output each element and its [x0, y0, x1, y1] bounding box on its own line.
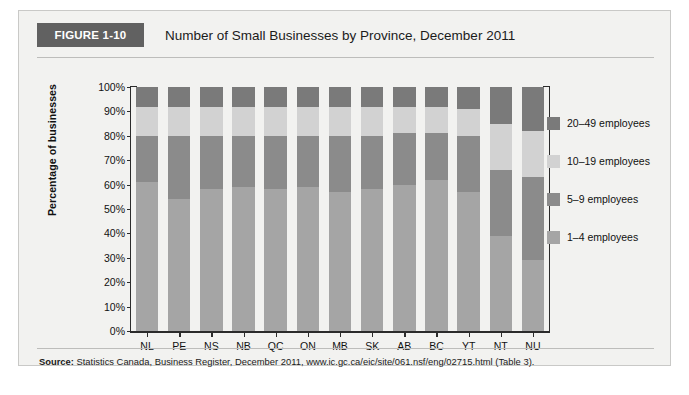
bar-segment — [168, 136, 191, 199]
y-tick-label: 100% — [98, 81, 125, 93]
x-tick-label-on: ON — [300, 340, 316, 352]
x-tick-label-ns: NS — [204, 340, 219, 352]
legend-label: 10–19 employees — [567, 155, 650, 167]
x-tick-mark — [533, 332, 534, 337]
bar-segment — [393, 87, 416, 107]
x-tick-label-pe: PE — [172, 340, 186, 352]
bar-segment — [297, 136, 320, 187]
bar-segment — [393, 133, 416, 184]
bar-segment — [490, 170, 513, 236]
x-tick-mark — [244, 332, 245, 337]
bar-segment — [393, 107, 416, 134]
x-tick-mark — [404, 332, 405, 337]
y-tick-label: 50% — [104, 203, 125, 215]
bar-yt[interactable] — [457, 87, 480, 331]
legend-swatch-icon — [547, 155, 560, 168]
x-tick-mark — [501, 332, 502, 337]
y-tick-label: 70% — [104, 154, 125, 166]
x-tick-mark — [179, 332, 180, 337]
bar-segment — [361, 87, 384, 107]
bar-segment — [264, 107, 287, 136]
bar-segment — [297, 87, 320, 107]
bar-sk[interactable] — [361, 87, 384, 331]
legend-item[interactable]: 5–9 employees — [547, 191, 650, 207]
x-tick-label-nt: NT — [494, 340, 508, 352]
legend-item[interactable]: 10–19 employees — [547, 153, 650, 169]
x-tick-label-bc: BC — [429, 340, 444, 352]
bar-ns[interactable] — [200, 87, 223, 331]
bar-segment — [457, 87, 480, 109]
bar-segment — [329, 87, 352, 107]
x-tick-label-yt: YT — [462, 340, 475, 352]
figure-card: FIGURE 1-10 Number of Small Businesses b… — [18, 10, 671, 366]
y-tick-label: 10% — [104, 301, 125, 313]
bar-segment — [264, 189, 287, 331]
bar-segment — [168, 87, 191, 107]
bar-nt[interactable] — [490, 87, 513, 331]
source-label: Source: — [39, 356, 74, 367]
source-note: Source: Statistics Canada, Business Regi… — [39, 356, 534, 367]
bar-segment — [136, 107, 159, 136]
legend-swatch-icon — [547, 193, 560, 206]
y-tick-label: 20% — [104, 276, 125, 288]
source-text: Statistics Canada, Business Register, De… — [74, 356, 534, 367]
legend-swatch-icon — [547, 231, 560, 244]
bar-segment — [490, 124, 513, 170]
bar-segment — [329, 136, 352, 192]
bar-segment — [425, 133, 448, 179]
legend-item[interactable]: 1–4 employees — [547, 229, 650, 245]
bar-qc[interactable] — [264, 87, 287, 331]
x-tick-mark — [276, 332, 277, 337]
bar-segment — [264, 87, 287, 107]
legend-item[interactable]: 20–49 employees — [547, 115, 650, 131]
bar-segment — [136, 87, 159, 107]
bar-pe[interactable] — [168, 87, 191, 331]
x-tick-label-nu: NU — [525, 340, 540, 352]
bar-segment — [168, 107, 191, 136]
bar-segment — [457, 109, 480, 136]
bar-segment — [200, 87, 223, 107]
bar-segment — [136, 136, 159, 182]
bar-segment — [361, 107, 384, 136]
y-tick-label: 40% — [104, 227, 125, 239]
bar-mb[interactable] — [329, 87, 352, 331]
bar-segment — [329, 192, 352, 331]
bar-segment — [329, 107, 352, 136]
source-divider — [37, 348, 654, 349]
x-tick-mark — [436, 332, 437, 337]
y-tick-label: 30% — [104, 252, 125, 264]
y-tick-label: 0% — [110, 325, 125, 337]
bar-on[interactable] — [297, 87, 320, 331]
bar-segment — [522, 131, 545, 177]
bar-segment — [297, 107, 320, 136]
bar-segment — [232, 187, 255, 331]
bar-nu[interactable] — [522, 87, 545, 331]
bar-segment — [361, 189, 384, 331]
x-tick-label-nl: NL — [140, 340, 153, 352]
y-tick-label: 60% — [104, 179, 125, 191]
bar-segment — [297, 187, 320, 331]
bar-segment — [522, 177, 545, 260]
bar-segment — [200, 107, 223, 136]
bar-ab[interactable] — [393, 87, 416, 331]
legend-label: 1–4 employees — [567, 231, 638, 243]
x-tick-mark — [372, 332, 373, 337]
bar-segment — [168, 199, 191, 331]
legend-label: 5–9 employees — [567, 193, 638, 205]
x-tick-mark — [469, 332, 470, 337]
y-axis-label: Percentage of businesses — [46, 55, 58, 245]
bar-segment — [522, 87, 545, 131]
bar-segment — [393, 185, 416, 331]
y-axis-ticks: 0%10%20%30%40%50%60%70%80%90%100% — [79, 81, 129, 331]
x-tick-mark — [308, 332, 309, 337]
x-tick-label-mb: MB — [332, 340, 348, 352]
bar-segment — [136, 182, 159, 331]
bar-nb[interactable] — [232, 87, 255, 331]
bar-bc[interactable] — [425, 87, 448, 331]
bar-nl[interactable] — [136, 87, 159, 331]
bar-segment — [425, 87, 448, 107]
bar-segment — [200, 136, 223, 190]
chart-legend: 20–49 employees10–19 employees5–9 employ… — [547, 115, 650, 267]
x-tick-label-ab: AB — [397, 340, 411, 352]
bar-segment — [264, 136, 287, 190]
